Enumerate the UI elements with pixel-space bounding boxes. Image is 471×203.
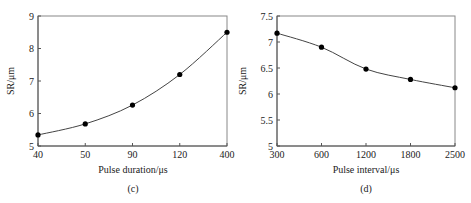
series-line <box>277 33 455 88</box>
y-axis-label: SR/μm <box>237 67 248 95</box>
y-tick-label: 6 <box>268 89 273 100</box>
chart-caption: (d) <box>360 183 372 195</box>
data-point <box>83 121 88 126</box>
data-point <box>408 77 413 82</box>
x-tick-label: 40 <box>33 149 43 160</box>
y-tick-label: 6.5 <box>261 63 274 74</box>
x-tick-label: 50 <box>80 149 90 160</box>
x-tick-label: 1200 <box>356 149 376 160</box>
x-tick-label: 300 <box>270 149 285 160</box>
plot-frame <box>38 16 227 146</box>
y-tick-label: 6 <box>29 108 34 119</box>
y-tick-label: 7.5 <box>261 11 274 22</box>
x-tick-label: 90 <box>128 149 138 160</box>
y-tick-label: 5.5 <box>261 115 274 126</box>
chart-caption: (c) <box>127 183 138 195</box>
data-point <box>363 66 368 71</box>
chart-d: SR/μm Pulse interval/μs (d) 55.566.577.5… <box>237 11 465 196</box>
x-axis-label: Pulse duration/μs <box>98 164 168 175</box>
y-tick-label: 7 <box>268 37 273 48</box>
x-tick-label: 120 <box>172 149 187 160</box>
x-tick-label: 2500 <box>445 149 465 160</box>
x-axis-label: Pulse interval/μs <box>333 164 400 175</box>
y-tick-label: 8 <box>29 43 34 54</box>
x-tick-label: 400 <box>220 149 235 160</box>
x-tick-label: 600 <box>314 149 329 160</box>
data-point <box>274 31 279 36</box>
data-point <box>130 102 135 107</box>
data-point <box>35 132 40 137</box>
plot-frame <box>277 16 455 146</box>
figure: SR/μm Pulse duration/μs (c) 567894050901… <box>0 0 471 203</box>
chart-c: SR/μm Pulse duration/μs (c) 567894050901… <box>5 11 235 196</box>
data-point <box>224 30 229 35</box>
data-point <box>319 45 324 50</box>
y-axis-label: SR/μm <box>5 67 16 95</box>
x-tick-label: 1800 <box>401 149 421 160</box>
data-point <box>452 85 457 90</box>
y-tick-label: 9 <box>29 11 34 22</box>
series-line <box>38 32 227 135</box>
data-point <box>177 72 182 77</box>
y-tick-label: 7 <box>29 76 34 87</box>
